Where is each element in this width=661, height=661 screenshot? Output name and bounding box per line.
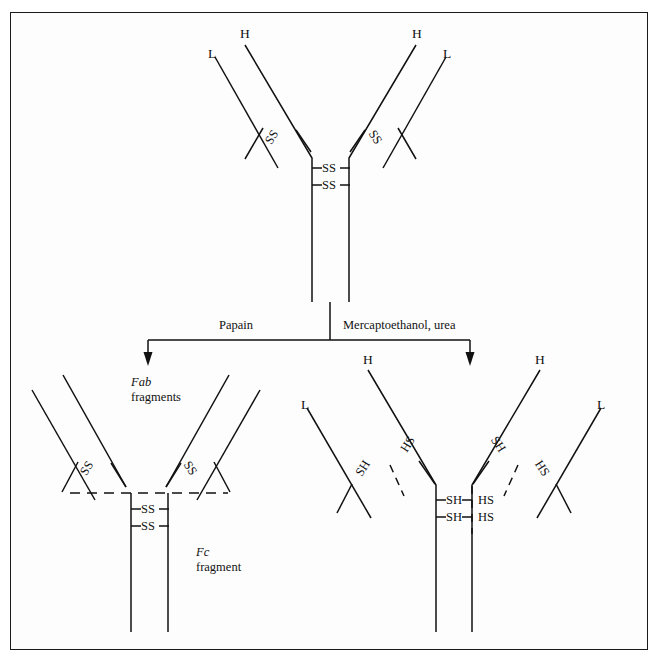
fc-disulfide-1-label: SS — [141, 502, 155, 517]
reduced-far-right-light-chain-label: L — [597, 397, 605, 413]
intact-left-arm-ss-tick-heavy — [296, 130, 311, 152]
reduced-left-heavy-chain — [368, 370, 436, 632]
fab-name: Fab — [131, 375, 181, 390]
fab-left-light-chain — [32, 390, 95, 500]
fc-name: Fc — [196, 545, 241, 560]
intact-right-light-chain — [383, 57, 446, 168]
reduction-arrow-head — [466, 352, 475, 366]
papain-arrow-head — [144, 352, 153, 366]
reduced-hinge-sh-2-label: SH — [446, 510, 462, 525]
reduced-right-heavy-sh-tick — [473, 461, 489, 484]
papain-condition-label: Papain — [219, 318, 253, 333]
reduced-hinge-hs-1-label: HS — [478, 493, 494, 508]
reduced-left-arm-separator — [390, 465, 404, 496]
fab-right-ss-tick-light — [214, 462, 230, 492]
fc-name-suffix: fragment — [196, 560, 241, 575]
fab-right-light-chain — [197, 390, 260, 500]
reduction-condition-label: Mercaptoethanol, urea — [343, 318, 455, 333]
fc-disulfide-2-label: SS — [141, 519, 155, 534]
intact-left-heavy-chain-label: H — [240, 26, 250, 42]
fab-fragments-label: Fab fragments — [131, 375, 181, 405]
reduced-left-heavy-hs-tick — [419, 461, 435, 484]
reduced-right-heavy-chain-label: H — [535, 352, 545, 368]
intact-left-heavy-chain — [245, 45, 312, 302]
reaction-arrow-group — [144, 302, 475, 366]
intact-right-arm-ss-tick-heavy — [350, 130, 365, 152]
intact-right-arm-ss-tick-light — [398, 128, 416, 159]
intact-right-heavy-chain — [349, 45, 416, 302]
fab-right-ss-tick-heavy — [166, 463, 181, 487]
intact-left-arm-ss-tick-light — [245, 128, 263, 159]
reduced-hinge-hs-2-label: HS — [478, 510, 494, 525]
reduced-far-right-light-hs-tick — [556, 484, 571, 513]
reduced-far-left-light-sh-tick — [337, 484, 352, 513]
fab-name-suffix: fragments — [131, 390, 181, 405]
reduced-right-arm-separator — [504, 465, 518, 496]
intact-right-light-chain-label: L — [443, 46, 451, 62]
fab-left-ss-tick-heavy — [111, 463, 126, 487]
intact-hinge-disulfide-1-label: SS — [322, 161, 336, 176]
intact-left-light-chain-label: L — [208, 46, 216, 62]
diagram-canvas — [0, 0, 661, 661]
fab-left-ss-tick-light — [62, 462, 78, 492]
fc-fragment-label: Fc fragment — [196, 545, 241, 575]
figure-page: Antibody structure: papain cleavage and … — [0, 0, 661, 661]
intact-right-heavy-chain-label: H — [412, 26, 422, 42]
reduced-hinge-sh-1-label: SH — [446, 493, 462, 508]
reduced-far-left-light-chain-label: L — [301, 397, 309, 413]
reduced-left-heavy-chain-label: H — [363, 352, 373, 368]
intact-left-light-chain — [215, 57, 278, 168]
intact-hinge-disulfide-2-label: SS — [322, 178, 336, 193]
